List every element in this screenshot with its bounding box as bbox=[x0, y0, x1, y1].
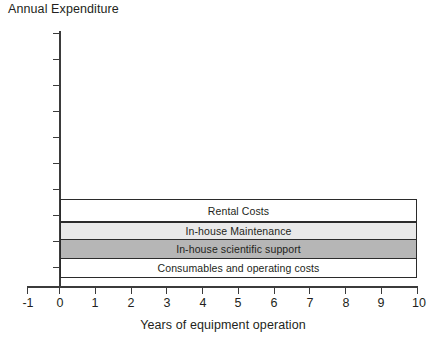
x-axis-line bbox=[27, 286, 418, 288]
y-axis-tick bbox=[53, 59, 60, 60]
x-axis-tick bbox=[166, 287, 167, 294]
y-axis-tick bbox=[53, 111, 60, 112]
x-axis-tick-label: 1 bbox=[92, 296, 99, 310]
y-axis-tick bbox=[53, 215, 60, 216]
bar-segment-in-house-scientific-support[interactable]: In-house scientific support bbox=[60, 239, 417, 259]
x-axis-tick-label: -1 bbox=[22, 296, 33, 310]
x-axis-tick-label: 2 bbox=[128, 296, 135, 310]
x-axis-title: Years of equipment operation bbox=[0, 318, 446, 332]
x-axis-tick bbox=[202, 287, 203, 294]
y-axis-tick bbox=[53, 267, 60, 268]
x-axis-tick-label: 7 bbox=[307, 296, 314, 310]
bar-segment-consumables-and-operating-costs[interactable]: Consumables and operating costs bbox=[60, 258, 417, 278]
plot-area: Rental Costs In-house Maintenance In-hou… bbox=[0, 0, 446, 356]
x-axis-tick bbox=[27, 287, 28, 294]
bar-segment-label: In-house Maintenance bbox=[186, 225, 292, 237]
y-axis-tick bbox=[53, 85, 60, 86]
x-axis-tick bbox=[274, 287, 275, 294]
bar-segment-in-house-maintenance[interactable]: In-house Maintenance bbox=[60, 222, 417, 240]
y-axis-tick bbox=[53, 241, 60, 242]
x-axis-tick bbox=[95, 287, 96, 294]
chart-container: Annual Expenditure Rental Costs In-house… bbox=[0, 0, 446, 356]
x-axis-tick-label: 0 bbox=[57, 296, 64, 310]
bar-segment-rental-costs[interactable]: Rental Costs bbox=[60, 199, 417, 222]
x-axis-tick bbox=[417, 287, 418, 294]
x-axis-tick bbox=[381, 287, 382, 294]
x-axis-tick-label: 6 bbox=[271, 296, 278, 310]
bar-segment-label: Rental Costs bbox=[208, 205, 269, 217]
x-axis-tick bbox=[59, 287, 60, 294]
x-axis-tick bbox=[131, 287, 132, 294]
y-axis-tick bbox=[53, 189, 60, 190]
y-axis-tick bbox=[53, 163, 60, 164]
x-axis-tick-label: 10 bbox=[412, 296, 426, 310]
x-axis-tick-label: 9 bbox=[378, 296, 385, 310]
bar-segment-label: In-house scientific support bbox=[176, 243, 301, 255]
x-axis-tick-label: 4 bbox=[200, 296, 207, 310]
x-axis-tick-label: 3 bbox=[164, 296, 171, 310]
y-axis-tick bbox=[53, 33, 60, 34]
y-axis-tick bbox=[53, 137, 60, 138]
x-axis-tick bbox=[345, 287, 346, 294]
x-axis-tick bbox=[309, 287, 310, 294]
x-axis-tick-label: 5 bbox=[235, 296, 242, 310]
bar-segment-label: Consumables and operating costs bbox=[158, 262, 320, 274]
x-axis-tick bbox=[238, 287, 239, 294]
x-axis-tick-label: 8 bbox=[343, 296, 350, 310]
